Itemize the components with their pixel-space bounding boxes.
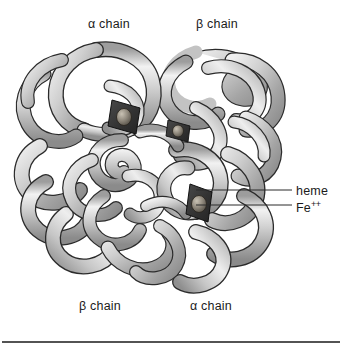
hemoglobin-illustration <box>0 0 342 345</box>
iron-atom-lower-right <box>192 196 207 213</box>
label-beta-chain-top: β chain <box>196 18 238 31</box>
iron-symbol-text: Fe <box>296 201 311 215</box>
label-beta-chain-bottom: β chain <box>79 300 121 313</box>
label-heme: heme <box>296 185 328 198</box>
hemoglobin-figure: α chain β chain β chain α chain heme Fe+… <box>0 0 342 345</box>
iron-atom-center <box>173 125 184 137</box>
iron-charge-text: ++ <box>311 199 321 209</box>
label-alpha-chain-bottom: α chain <box>190 300 232 313</box>
label-iron: Fe++ <box>296 200 321 215</box>
label-alpha-chain-top: α chain <box>88 18 130 31</box>
iron-atom-upper-left <box>117 109 132 126</box>
protein-backbone-ribbons <box>22 49 278 285</box>
